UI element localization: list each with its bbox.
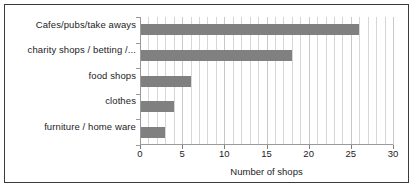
gridline <box>241 17 242 145</box>
chart-figure: Cafes/pubs/take aways charity shops / be… <box>0 0 414 188</box>
gridline <box>199 17 200 145</box>
gridline <box>393 17 394 145</box>
value-axis-label: 30 <box>388 148 399 160</box>
gridline <box>224 17 225 145</box>
bar <box>141 24 359 35</box>
value-axis-line <box>140 144 393 145</box>
gridline <box>283 17 284 145</box>
gridline <box>275 17 276 145</box>
gridline <box>359 17 360 145</box>
value-axis-label: 0 <box>137 148 142 160</box>
category-label: Cafes/pubs/take aways <box>8 19 136 30</box>
value-axis-label: 25 <box>346 148 357 160</box>
gridline <box>207 17 208 145</box>
gridline <box>216 17 217 145</box>
value-axis-label: 5 <box>180 148 185 160</box>
gridline <box>292 17 293 145</box>
gridline <box>258 17 259 145</box>
value-axis-title: Number of shops <box>140 166 393 177</box>
category-label: furniture / home ware <box>8 121 136 132</box>
gridline <box>385 17 386 145</box>
category-axis-labels: Cafes/pubs/take aways charity shops / be… <box>8 17 136 145</box>
gridline <box>191 17 192 145</box>
category-label: food shops <box>8 70 136 81</box>
value-axis-label: 20 <box>303 148 314 160</box>
gridline <box>376 17 377 145</box>
bar <box>141 101 174 112</box>
gridline <box>317 17 318 145</box>
gridline <box>368 17 369 145</box>
gridline <box>351 17 352 145</box>
category-label: charity shops / betting /... <box>8 44 136 55</box>
bar <box>141 50 292 61</box>
category-label: clothes <box>8 95 136 106</box>
gridline <box>334 17 335 145</box>
value-axis-labels: 051015202530 <box>140 148 393 162</box>
gridline <box>326 17 327 145</box>
gridline <box>300 17 301 145</box>
plot-area <box>140 17 393 145</box>
bar <box>141 127 165 138</box>
gridline <box>267 17 268 145</box>
gridline <box>233 17 234 145</box>
value-axis-label: 10 <box>219 148 230 160</box>
value-axis-label: 15 <box>261 148 272 160</box>
bar <box>141 76 191 87</box>
gridline <box>342 17 343 145</box>
gridline <box>250 17 251 145</box>
gridline <box>309 17 310 145</box>
